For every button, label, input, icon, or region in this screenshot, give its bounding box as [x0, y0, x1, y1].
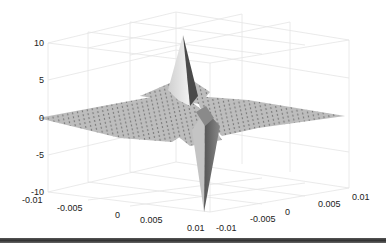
z-tick-5: 5 — [39, 75, 44, 85]
surface-plot: 10 5 0 -5 -10 -0.01 -0.005 0 0.005 0.01 … — [0, 0, 386, 246]
x-tick-0005: 0.005 — [140, 215, 163, 225]
negative-spike-dark — [204, 110, 220, 212]
x-tick-001: 0.01 — [187, 223, 205, 233]
y-tick-0: 0 — [285, 207, 290, 217]
y-tick-neg001: -0.01 — [216, 223, 237, 233]
z-tick-10: 10 — [34, 38, 44, 48]
x-tick-neg001: -0.01 — [22, 195, 43, 205]
z-tick-neg5: -5 — [36, 150, 44, 160]
y-axis-ticks: -0.01 -0.005 0 0.005 0.01 — [216, 192, 370, 233]
y-tick-001: 0.01 — [352, 192, 370, 202]
x-tick-0: 0 — [115, 210, 120, 220]
surface — [38, 35, 345, 212]
x-tick-neg0005: -0.005 — [57, 203, 83, 213]
z-tick-0: 0 — [39, 113, 44, 123]
z-axis-ticks: 10 5 0 -5 -10 — [31, 38, 44, 197]
x-axis-ticks: -0.01 -0.005 0 0.005 0.01 — [22, 195, 205, 233]
y-tick-0005: 0.005 — [318, 199, 341, 209]
y-tick-neg0005: -0.005 — [250, 214, 276, 224]
bottom-border-bar — [0, 238, 386, 243]
